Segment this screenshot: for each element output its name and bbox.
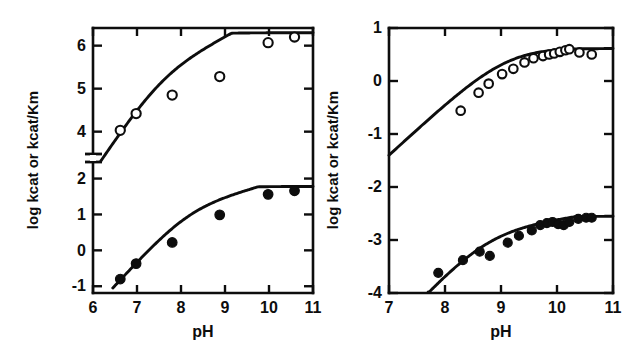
figure-ph-rate-profiles: -101245667891011 pH log kcat or kcat/Km … [0,0,643,359]
right-data-point-filled [458,256,467,265]
left-y-ticks [93,46,313,287]
left-data-point-open [116,126,125,135]
right-data-point-open [484,79,493,88]
left-data-point-filled [263,190,273,200]
right-x-tick-label: 8 [441,299,450,316]
left-data-point-open [132,109,141,118]
left-y-tick-label: 0 [77,242,86,259]
left-data-point-filled [131,259,141,269]
left-x-tick-label: 10 [260,299,278,316]
chart-panel-right: -4-3-2-1017891011 pH log kcat or kcat/Km [322,0,643,359]
left-x-tick-label: 6 [89,299,98,316]
left-data-point-open [290,32,299,41]
left-x-tick-label: 8 [177,299,186,316]
plot-left-svg: -101245667891011 pH log kcat or kcat/Km [0,0,322,359]
right-data-point-open [529,54,538,63]
right-data-point-open [587,50,596,59]
right-y-tick-label: -1 [368,125,382,142]
right-data-point-open [498,70,507,79]
right-fit-curve-kcat [428,216,613,292]
left-tick-labels: -101245667891011 [72,37,322,316]
left-y-axis-title: log kcat or kcat/Km [24,91,41,229]
left-axis-break-mark [85,154,102,162]
left-data-point-filled [167,238,177,248]
right-x-tick-label: 7 [385,299,394,316]
plot-right-svg: -4-3-2-1017891011 pH log kcat or kcat/Km [322,0,643,359]
right-y-tick-label: -4 [368,284,382,301]
left-data-point-open [264,38,273,47]
left-y-tick-label: -1 [72,277,86,294]
right-data-point-filled [587,213,596,222]
right-data-point-open [565,45,574,54]
right-data-point-open [575,48,584,57]
left-fit-curves [101,33,313,288]
right-y-tick-label: 1 [373,19,382,36]
right-data-point-open [509,65,518,74]
left-data-points [115,32,299,283]
left-x-tick-label: 11 [305,299,322,316]
chart-panel-left: -101245667891011 pH log kcat or kcat/Km [0,0,322,359]
left-y-tick-label: 5 [77,80,86,97]
left-axes-frame [93,28,313,293]
right-data-point-filled [434,268,443,277]
right-fit-curve-kcat-km [389,48,613,155]
left-y-tick-label: 4 [77,123,86,140]
left-fit-curve-kcat [113,186,313,288]
left-data-point-filled [215,210,225,220]
right-x-tick-label: 11 [605,299,622,316]
right-data-point-open [474,88,483,97]
right-data-point-filled [565,217,574,226]
right-data-points [434,45,596,277]
right-data-point-filled [514,231,523,240]
right-data-point-filled [485,251,494,260]
left-y-tick-label: 1 [77,206,86,223]
right-axes-frame [389,28,613,293]
right-data-point-filled [527,226,536,235]
right-x-axis-title: pH [490,323,511,340]
left-y-tick-label: 2 [77,170,86,187]
right-y-axis-title: log kcat or kcat/Km [324,91,341,229]
right-x-ticks [389,28,613,293]
left-data-point-filled [290,186,300,196]
right-y-tick-label: -3 [368,231,382,248]
right-y-ticks [389,28,613,293]
right-data-point-open [520,58,529,67]
left-x-ticks [93,28,313,293]
left-y-tick-label: 6 [77,37,86,54]
right-y-tick-label: -2 [368,178,382,195]
right-data-point-filled [475,247,484,256]
right-tick-labels: -4-3-2-1017891011 [368,19,622,316]
left-data-point-open [168,91,177,100]
right-x-tick-label: 10 [548,299,566,316]
left-data-point-filled [115,274,125,284]
right-y-tick-label: 0 [373,72,382,89]
right-data-point-filled [503,238,512,247]
left-x-tick-label: 7 [133,299,142,316]
left-x-tick-label: 9 [221,299,230,316]
right-data-point-open [456,106,465,115]
left-fit-curve-kcat-km [101,33,313,161]
right-x-tick-label: 9 [497,299,506,316]
left-data-point-open [215,72,224,81]
right-fit-curves [389,48,613,292]
left-break-gap [90,155,96,161]
left-x-axis-title: pH [192,323,213,340]
